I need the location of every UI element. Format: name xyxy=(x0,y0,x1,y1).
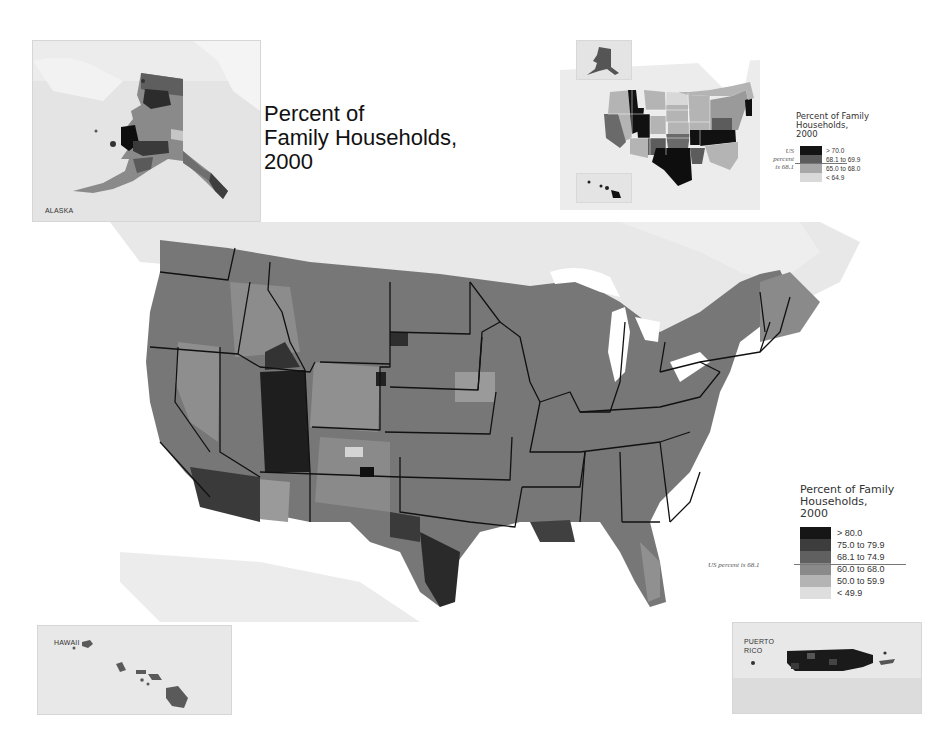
county-legend-swatch xyxy=(800,587,831,599)
state-legend-swatch xyxy=(800,146,822,155)
state-legend-swatches: > 70.0 68.1 to 69.9 65.0 to 68.0 < 64.9 xyxy=(800,146,860,182)
alaska-label: ALASKA xyxy=(45,207,73,214)
state-us-note-line-1: US xyxy=(764,147,794,155)
state-level-hawaii-inset xyxy=(576,173,632,203)
map-title-line-2: Family Households, xyxy=(264,126,457,150)
state-level-alaska-inset xyxy=(576,40,632,80)
map-title: Percent of Family Households, 2000 xyxy=(264,102,457,174)
county-legend-row: > 80.0 xyxy=(800,527,885,539)
county-legend-swatches: > 80.0 75.0 to 79.9 68.1 to 74.9 60.0 to… xyxy=(800,527,885,599)
state-legend-us-note: US percent is 68.1 xyxy=(764,147,794,171)
hawaii-label: HAWAII xyxy=(54,639,80,646)
state-level-inset-map xyxy=(560,30,760,210)
state-level-alaska-graphic xyxy=(577,41,631,79)
state-legend-title-line-3: 2000 xyxy=(796,130,869,139)
state-legend-row: 65.0 to 68.0 xyxy=(800,164,860,173)
state-legend-label: 68.1 to 69.9 xyxy=(826,156,860,163)
state-us-note-line-2: percent xyxy=(764,155,794,163)
puerto-rico-label-line-2: RICO xyxy=(744,646,774,655)
county-legend-swatch xyxy=(800,539,831,551)
map-title-line-1: Percent of xyxy=(264,102,457,126)
puerto-rico-label: PUERTO RICO xyxy=(744,637,774,655)
county-legend-row: 75.0 to 79.9 xyxy=(800,539,885,551)
puerto-rico-label-line-1: PUERTO xyxy=(744,637,774,646)
county-legend-label: 68.1 to 74.9 xyxy=(837,552,885,562)
county-legend-row: 68.1 to 74.9 xyxy=(800,551,885,563)
alaska-map-graphic xyxy=(33,41,260,221)
county-legend-label: < 49.9 xyxy=(837,588,862,598)
state-legend-swatch xyxy=(800,173,822,182)
puerto-rico-inset: PUERTO RICO xyxy=(732,622,922,714)
county-legend-swatch xyxy=(800,575,831,587)
state-legend-label: < 64.9 xyxy=(826,174,844,181)
state-legend-row: < 64.9 xyxy=(800,173,860,182)
county-legend-label: > 80.0 xyxy=(837,528,862,538)
county-legend-us-reference-line xyxy=(794,564,906,565)
state-legend-label: > 70.0 xyxy=(826,147,844,154)
state-legend-row: > 70.0 xyxy=(800,146,860,155)
state-legend-swatch xyxy=(800,164,822,173)
state-level-legend: Percent of Family Households, 2000 xyxy=(796,112,869,139)
county-legend-title-line-3: 2000 xyxy=(800,508,894,520)
state-level-hawaii-graphic xyxy=(577,174,631,202)
hawaii-inset: HAWAII xyxy=(37,625,232,715)
county-level-legend: Percent of Family Households, 2000 xyxy=(800,484,894,520)
county-legend-swatch xyxy=(800,527,831,539)
map-title-line-3: 2000 xyxy=(264,150,457,174)
state-legend-us-reference-line xyxy=(795,163,847,164)
state-legend-title: Percent of Family Households, 2000 xyxy=(796,112,869,139)
county-legend-title: Percent of Family Households, 2000 xyxy=(800,484,894,520)
state-legend-label: 65.0 to 68.0 xyxy=(826,165,860,172)
county-legend-us-note: US percent is 68.1 xyxy=(708,561,759,569)
state-us-note-line-3: is 68.1 xyxy=(764,163,794,171)
county-legend-label: 75.0 to 79.9 xyxy=(837,540,885,550)
county-legend-swatch xyxy=(800,551,831,563)
county-legend-label: 50.0 to 59.9 xyxy=(837,576,885,586)
county-legend-row: 50.0 to 59.9 xyxy=(800,575,885,587)
county-legend-row: < 49.9 xyxy=(800,587,885,599)
county-legend-label: 60.0 to 68.0 xyxy=(837,564,885,574)
alaska-inset: ALASKA xyxy=(32,40,261,222)
